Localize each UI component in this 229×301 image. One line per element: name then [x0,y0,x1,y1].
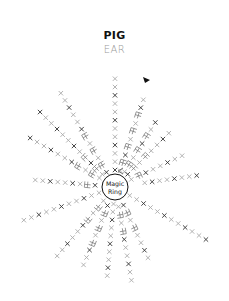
stitch-x-icon [83,168,87,172]
stitch-x-icon [101,199,105,203]
increase-icon [129,128,137,136]
stitch-x-icon [151,167,155,171]
stitch-x-icon [44,210,48,214]
stitch-x-icon [100,172,104,176]
stitch-x-icon [87,248,91,252]
stitch-x-icon [105,273,109,277]
stitch-x-icon [140,141,144,145]
stitch-x-icon [173,157,177,161]
increase-icon [101,209,109,217]
stitch-x-icon [82,196,86,200]
increase-icon [82,132,90,140]
stitch-x-icon [106,258,110,262]
stitch-x-icon [113,110,117,114]
stitch-x-icon [165,177,169,181]
stitch-x-icon [29,215,33,219]
stitch-x-icon [106,265,110,269]
increase-icon [125,161,133,169]
stitch-x-icon [108,242,112,246]
stitch-x-icon [123,153,127,157]
stitch-x-icon [56,180,60,184]
stitch-x-icon [70,181,74,185]
stitch-x-icon [75,120,79,124]
stitch-x-icon [48,179,52,183]
stitch-x-icon [89,193,93,197]
stitch-x-icon [109,234,113,238]
increase-icon [75,162,83,170]
increase-icon [119,228,126,235]
stitch-x-icon [123,245,127,249]
stitch-x-icon [74,199,78,203]
stitch-x-icon [44,116,48,120]
stitch-x-icon [38,110,42,114]
stitch-x-icon [187,174,191,178]
stitch-x-icon [88,141,92,145]
stitch-x-icon [176,221,180,225]
stitch-x-icon [162,213,166,217]
stitch-x-icon [109,226,113,230]
stitch-x-icon [139,241,143,245]
stitch-x-icon [169,217,173,221]
stitch-x-icon [126,262,130,266]
stitch-x-icon [35,140,39,144]
increase-icon [119,159,127,167]
stitch-x-icon [69,160,73,164]
increase-icon [98,161,106,169]
stitch-x-icon [148,205,152,209]
stitch-x-icon [183,225,187,229]
stitch-x-icon [113,168,117,172]
stitch-x-icon [153,120,157,124]
stitch-x-icon [63,98,67,102]
stitch-x-icon [107,250,111,254]
increase-icon [95,224,103,232]
stitch-x-icon [105,203,109,207]
stitch-x-icon [65,241,69,245]
stitch-x-icon [60,132,64,136]
stitch-x-icon [91,211,95,215]
stitch-x-icon [122,170,126,174]
stitch-x-icon [55,127,59,131]
stitch-x-icon [121,203,125,207]
stitch-x-icon [22,218,26,222]
stitch-x-icon [63,156,67,160]
stitch-x-icon [113,118,117,122]
stitch-x-icon [155,143,159,147]
stitch-x-icon [110,218,114,222]
stitch-x-icon [197,233,201,237]
stitch-x-icon [126,172,130,176]
stitch-x-icon [71,113,75,117]
increase-icon [89,239,97,247]
stitch-x-icon [194,173,198,177]
stitch-x-icon [84,255,88,259]
stitch-x-icon [111,210,115,214]
stitch-x-icon [113,101,117,105]
increase-icon [94,203,102,211]
stitch-x-icon [161,137,165,141]
stitch-x-icon [122,237,126,241]
stitch-x-icon [72,144,76,148]
increase-icon [130,224,138,232]
stitch-x-icon [59,204,63,208]
stitch-x-icon [113,143,117,147]
stitch-x-icon [37,213,41,217]
stitch-x-icon [60,248,64,252]
stitch-x-icon [180,175,184,179]
stitch-x-icon [99,218,103,222]
stitch-x-icon [149,127,153,131]
stitch-x-icon [55,254,59,258]
stitch-x-icon [52,207,56,211]
stitch-x-icon [113,160,117,164]
stitch-x-icon [131,155,135,159]
stitch-x-icon [146,256,150,260]
stitch-x-icon [79,127,83,131]
stitch-x-icon [77,149,81,153]
stitch-x-icon [190,229,194,233]
stitch-x-icon [128,193,132,197]
stitch-x-icon [119,221,123,225]
stitch-x-icon [165,160,169,164]
increase-icon [123,209,131,217]
stitch-x-icon [141,98,145,102]
stitch-x-icon [89,161,93,165]
stitch-x-icon [63,180,67,184]
stitch-x-icon [59,91,63,95]
